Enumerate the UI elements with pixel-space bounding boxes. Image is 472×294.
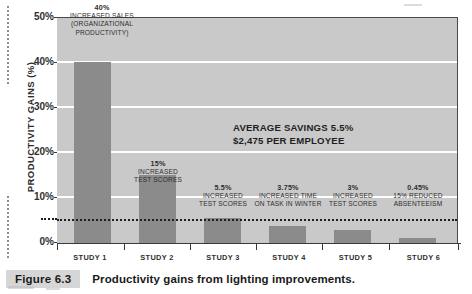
annotation-study-1: 40% INCREASED SALES (ORGANIZATIONAL PROD… — [47, 4, 157, 37]
x-axis-label-study-5: STUDY 5 — [322, 253, 389, 262]
x-axis-label-study-1: STUDY 1 — [57, 253, 123, 262]
x-tick-mark-1 — [124, 243, 125, 250]
y-axis-dotted-rule-top — [7, 6, 11, 84]
annotation-line-2-1: INCREASED — [114, 168, 202, 176]
scan-artifact-2 — [46, 288, 60, 290]
x-tick-mark-4 — [322, 243, 323, 250]
callout-line-1: AVERAGE SAVINGS 5.5% — [233, 122, 353, 135]
annotation-value-6: 0.45% — [375, 184, 461, 192]
annotation-line-6-1: 15% REDUCED — [375, 192, 461, 200]
x-axis-label-study-4: STUDY 4 — [256, 253, 322, 262]
plot-area: 40% INCREASED SALES (ORGANIZATIONAL PROD… — [57, 17, 458, 243]
average-reference-line — [57, 219, 457, 221]
annotation-value-2: 15% — [114, 160, 202, 168]
annotation-line-1-2: (ORGANIZATIONAL — [47, 20, 157, 28]
y-tick-label-0: 0% — [20, 237, 54, 247]
annotation-study-2: 15% INCREASED TEST SCORES — [114, 160, 202, 185]
x-axis-label-study-3: STUDY 3 — [190, 253, 256, 262]
y-tick-label-10: 10% — [20, 192, 54, 202]
x-axis-label-study-2: STUDY 2 — [124, 253, 190, 262]
bar-study-5 — [334, 230, 371, 244]
y-tick-label-40: 40% — [20, 57, 54, 67]
y-tick-label-20: 20% — [20, 147, 54, 157]
annotation-line-1-1: INCREASED SALES — [47, 12, 157, 20]
gridline-30 — [57, 106, 457, 108]
annotation-line-1-3: PRODUCTIVITY) — [47, 29, 157, 37]
x-tick-mark-5 — [389, 243, 390, 250]
callout-line-2: $2,475 PER EMPLOYEE — [233, 135, 353, 148]
x-tick-mark-0 — [57, 243, 58, 250]
figure-container: PRODUCTIVITY GAINS (%) 50% 40% 30% 20% 1… — [0, 0, 472, 294]
bar-study-3 — [204, 218, 241, 243]
figure-caption: Figure 6.3 Productivity gains from light… — [0, 268, 472, 290]
gridline-40 — [57, 61, 457, 63]
scan-artifact-1 — [8, 286, 34, 289]
bar-study-4 — [269, 226, 306, 243]
x-axis-line — [57, 243, 461, 244]
y-axis-ticks: 50% 40% 30% 20% 10% 0% — [16, 0, 54, 260]
average-reference-line-stub — [41, 218, 57, 220]
average-savings-callout: AVERAGE SAVINGS 5.5% $2,475 PER EMPLOYEE — [233, 122, 353, 147]
bar-study-2 — [139, 175, 176, 243]
scan-artifact-3 — [404, 4, 422, 6]
figure-caption-text: Productivity gains from lighting improve… — [92, 273, 355, 285]
x-axis-label-study-6: STUDY 6 — [389, 253, 458, 262]
annotation-study-6: 0.45% 15% REDUCED ABSENTEEISM — [375, 184, 461, 209]
gridline-20 — [57, 151, 457, 153]
annotation-value-1: 40% — [47, 4, 157, 12]
x-tick-mark-6 — [458, 243, 459, 250]
x-tick-mark-2 — [190, 243, 191, 250]
y-axis-dotted-rule-bottom — [7, 196, 11, 258]
y-tick-label-30: 30% — [20, 102, 54, 112]
x-tick-mark-3 — [256, 243, 257, 250]
annotation-line-6-2: ABSENTEEISM — [375, 200, 461, 208]
bar-study-1 — [74, 62, 111, 243]
